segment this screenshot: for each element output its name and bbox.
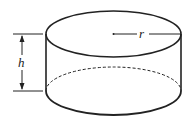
arrow-up-icon	[20, 35, 25, 42]
radius-label: r	[139, 26, 145, 41]
cylinder-diagram: r h	[0, 0, 190, 125]
bottom-back-dashed-arc	[46, 67, 181, 91]
cylinder-figure: r h	[0, 0, 190, 125]
height-label: h	[18, 55, 25, 70]
bottom-front-arc	[46, 91, 181, 115]
arrow-down-icon	[20, 83, 25, 90]
